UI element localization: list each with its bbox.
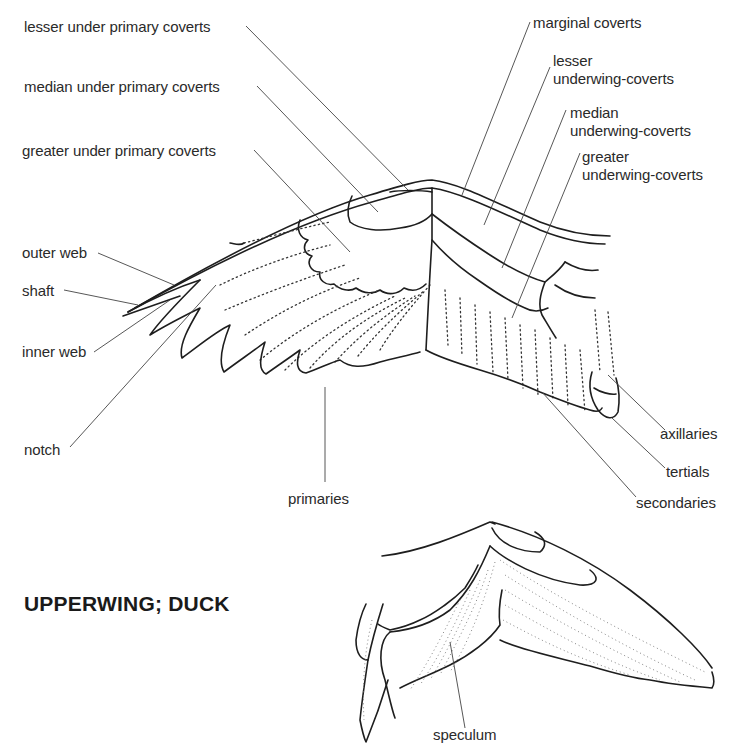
label-lesser-under-primary-coverts: lesser under primary coverts	[24, 18, 210, 35]
upperwing-duck-title: UPPERWING; DUCK	[24, 592, 230, 616]
label-notch: notch	[24, 441, 60, 458]
label-lesser-underwing-coverts-line1: lesser	[553, 52, 592, 69]
upperwing-duck-drawing	[356, 522, 714, 742]
label-primaries: primaries	[288, 490, 349, 507]
label-inner-web: inner web	[22, 343, 86, 360]
label-speculum: speculum	[433, 726, 496, 743]
label-median-underwing-coverts-line2: underwing-coverts	[570, 122, 691, 139]
label-marginal-coverts: marginal coverts	[533, 14, 641, 31]
underwing-drawing	[123, 180, 619, 418]
label-greater-underwing-coverts-line2: underwing-coverts	[582, 166, 703, 183]
label-secondaries: secondaries	[636, 494, 716, 511]
label-axillaries: axillaries	[660, 425, 717, 442]
label-lesser-underwing-coverts-line2: underwing-coverts	[553, 70, 674, 87]
speculum-leader-line	[450, 642, 465, 728]
label-greater-underwing-coverts-line1: greater	[582, 148, 629, 165]
wing-illustrations	[0, 0, 735, 754]
label-greater-under-primary-coverts: greater under primary coverts	[22, 142, 216, 159]
label-outer-web: outer web	[22, 244, 87, 261]
label-shaft: shaft	[22, 282, 54, 299]
label-median-under-primary-coverts: median under primary coverts	[24, 78, 220, 95]
label-tertials: tertials	[666, 463, 709, 480]
label-median-underwing-coverts-line1: median	[570, 104, 619, 121]
